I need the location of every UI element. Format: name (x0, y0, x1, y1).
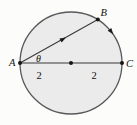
point-b-label: B (101, 7, 108, 18)
center-dot (69, 61, 73, 65)
right-segment-length-label: 2 (91, 70, 96, 81)
point-c-label: C (126, 58, 134, 69)
point-a-label: A (8, 57, 16, 68)
point-c-dot (120, 61, 124, 65)
circle-diagram: A B C θ 2 2 (0, 0, 137, 125)
theta-angle-label: θ (36, 53, 41, 64)
point-a-dot (18, 61, 22, 65)
point-b-dot (96, 18, 100, 22)
geometry-figure-stage: A B C θ 2 2 (0, 0, 137, 125)
left-segment-length-label: 2 (36, 70, 41, 81)
